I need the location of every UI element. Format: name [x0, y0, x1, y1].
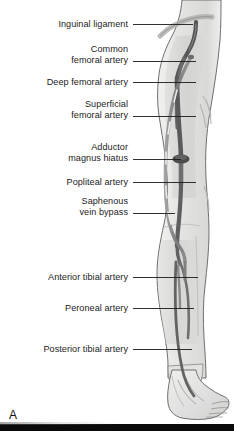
label-adductor-magnus-hiatus-line-1: Adductor	[68, 142, 128, 153]
label-inguinal-ligament-line-1: Inguinal ligament	[58, 19, 128, 30]
label-adductor-magnus-hiatus: Adductormagnus hiatus	[68, 142, 128, 164]
foot-outline	[168, 370, 229, 420]
label-anterior-tibial-artery-line-1: Anterior tibial artery	[48, 272, 128, 283]
label-anterior-tibial-artery: Anterior tibial artery	[48, 272, 128, 283]
foot	[168, 370, 229, 420]
proximal-anastomosis	[188, 55, 194, 59]
label-peroneal-artery: Peroneal artery	[65, 303, 128, 314]
label-common-femoral-artery-line-2: femoral artery	[71, 55, 128, 66]
label-superficial-femoral-artery: Superficialfemoral artery	[71, 99, 128, 121]
label-superficial-femoral-artery-line-2: femoral artery	[71, 110, 128, 121]
label-deep-femoral-artery-line-1: Deep femoral artery	[47, 77, 128, 88]
label-posterior-tibial-artery: Posterior tibial artery	[43, 344, 128, 355]
label-popliteal-artery-line-1: Popliteal artery	[67, 177, 128, 188]
bottom-black-bar	[0, 424, 234, 431]
label-common-femoral-artery: Commonfemoral artery	[71, 44, 128, 66]
label-saphenous-vein-bypass-line-1: Saphenous	[79, 196, 128, 207]
label-common-femoral-artery-line-1: Common	[71, 44, 128, 55]
bar-smudge	[0, 422, 120, 425]
label-adductor-magnus-hiatus-line-2: magnus hiatus	[68, 153, 128, 164]
panel-letter: A	[9, 408, 17, 422]
anatomy-figure: Inguinal ligamentCommonfemoral arteryDee…	[0, 0, 234, 431]
label-popliteal-artery: Popliteal artery	[67, 177, 128, 188]
label-deep-femoral-artery: Deep femoral artery	[47, 77, 128, 88]
label-saphenous-vein-bypass: Saphenousvein bypass	[79, 196, 128, 218]
label-inguinal-ligament: Inguinal ligament	[58, 19, 128, 30]
label-superficial-femoral-artery-line-1: Superficial	[71, 99, 128, 110]
label-peroneal-artery-line-1: Peroneal artery	[65, 303, 128, 314]
label-saphenous-vein-bypass-line-2: vein bypass	[79, 207, 128, 218]
label-posterior-tibial-artery-line-1: Posterior tibial artery	[43, 344, 128, 355]
